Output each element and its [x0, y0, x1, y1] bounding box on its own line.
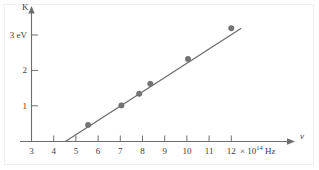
- x-units-exponent: 14: [256, 144, 263, 151]
- x-tick-label-10: 10: [182, 147, 191, 156]
- photoelectric-effect-figure: K 3 eV 2 1 3 4 5 6 7 8 9 10 11 12 × 1014…: [0, 0, 319, 170]
- data-point: [185, 56, 190, 61]
- x-units-mantissa: × 10: [240, 146, 256, 156]
- x-tick-label-5: 5: [74, 147, 79, 156]
- y-axis-title: K: [22, 3, 29, 12]
- best-fit-line: [65, 28, 241, 141]
- x-tick-label-11: 11: [205, 147, 214, 156]
- x-axis-units: × 1014 Hz: [240, 147, 276, 156]
- data-point: [148, 81, 153, 86]
- x-tick-label-7: 7: [118, 147, 123, 156]
- x-units-suffix: Hz: [265, 146, 276, 156]
- y-tick-label-2: 2: [0, 66, 27, 75]
- data-point: [229, 26, 234, 31]
- x-axis-arrowhead: [287, 138, 295, 145]
- x-tick-label-8: 8: [140, 147, 145, 156]
- data-point: [85, 122, 90, 127]
- x-tick-label-6: 6: [96, 147, 101, 156]
- y-axis-arrowhead: [28, 6, 34, 14]
- x-tick-label-9: 9: [162, 147, 167, 156]
- x-tick-label-4: 4: [51, 147, 56, 156]
- y-tick-label-1: 1: [0, 101, 27, 110]
- plot-canvas: [0, 0, 319, 170]
- x-axis-symbol: ν: [300, 132, 304, 141]
- y-tick-label-3ev: 3 eV: [0, 31, 27, 40]
- data-point: [137, 91, 142, 96]
- data-point: [119, 103, 124, 108]
- x-tick-label-3: 3: [29, 147, 34, 156]
- x-tick-label-12: 12: [227, 147, 236, 156]
